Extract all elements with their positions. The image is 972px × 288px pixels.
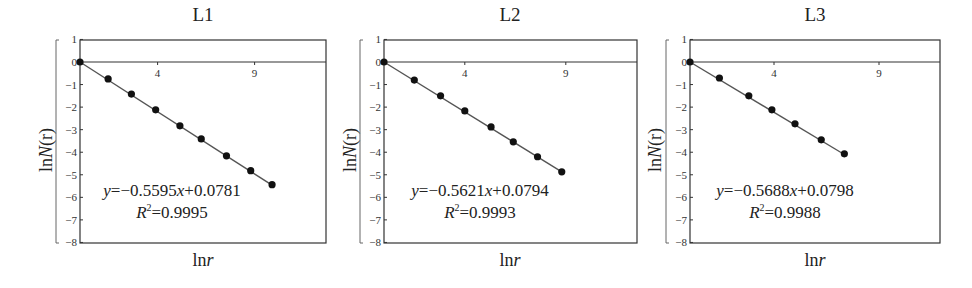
data-point xyxy=(768,106,775,113)
y-tick-label: −4 xyxy=(675,146,687,158)
data-point xyxy=(841,150,848,157)
y-tick-label: −8 xyxy=(675,236,687,248)
data-point xyxy=(686,58,693,65)
chart-title: L3 xyxy=(804,4,825,26)
xlabel-prefix: ln xyxy=(804,250,818,270)
plot-area: 10−1−2−3−4−5−6−7−849 xyxy=(0,0,972,288)
xlabel-var: r xyxy=(819,250,826,270)
data-point xyxy=(791,120,798,127)
r2-var: R xyxy=(749,203,759,222)
eq-intercept: +0.0798 xyxy=(797,181,853,200)
y-tick-label: −3 xyxy=(675,124,687,136)
data-point xyxy=(818,136,825,143)
x-tick-label: 4 xyxy=(771,67,777,79)
x-axis-label: lnr xyxy=(804,250,825,271)
data-point xyxy=(745,92,752,99)
data-point xyxy=(716,74,723,81)
y-tick-label: −2 xyxy=(675,101,687,113)
r-squared-label: R2=0.9988 xyxy=(749,203,821,223)
y-tick-label: −5 xyxy=(675,169,687,181)
ylabel-suffix: (r) xyxy=(645,128,665,146)
x-tick-label: 9 xyxy=(876,67,882,79)
y-tick-label: 1 xyxy=(682,33,688,45)
ylabel-prefix: ln xyxy=(645,158,665,172)
ylabel-var: N xyxy=(645,146,665,158)
chart-panel-l3: 10−1−2−3−4−5−6−7−849 L3 lnN(r) lnr y=−0.… xyxy=(0,0,972,288)
y-tick-label: −1 xyxy=(675,79,687,91)
regression-equation: y=−0.5688x+0.0798 xyxy=(716,181,853,201)
eq-slope: =−0.5688 xyxy=(724,181,790,200)
eq-x: x xyxy=(790,181,798,200)
eq-y: y xyxy=(716,181,724,200)
y-axis-label: lnN(r) xyxy=(645,128,666,172)
r2-sup: 2 xyxy=(760,202,765,213)
y-tick-label: −7 xyxy=(675,214,687,226)
r2-value: =0.9988 xyxy=(765,203,821,222)
y-tick-label: −6 xyxy=(675,191,687,203)
